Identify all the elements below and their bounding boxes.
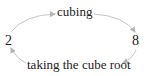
edge-label-cube-root: taking the cube root: [27, 58, 131, 72]
edge-label-cubing: cubing: [57, 5, 92, 19]
node-eight: 8: [132, 34, 139, 48]
arrow-cuberoot-to-left: [11, 48, 26, 63]
arrow-left-to-cubing: [11, 14, 55, 32]
node-two: 2: [5, 34, 12, 48]
arrow-cubing-to-right: [94, 14, 135, 32]
cycle-diagram: cubing 2 8 taking the cube root: [0, 0, 148, 76]
